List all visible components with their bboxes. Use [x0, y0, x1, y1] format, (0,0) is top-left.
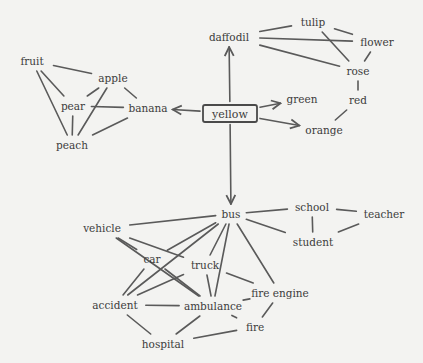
node-teacher: teacher [364, 208, 406, 220]
edge-truck-fire_engine [227, 273, 254, 283]
node-banana: banana [128, 102, 167, 114]
node-fire_engine: fire engine [251, 287, 309, 299]
edge-bus-vehicle [130, 216, 216, 225]
edge-ambulance-fire [232, 315, 237, 317]
edge-daffodil-flower [260, 38, 353, 41]
edge-tulip-flower [335, 29, 353, 35]
edge-bus-school [246, 209, 287, 213]
arrow-yellow-to-bus [230, 125, 231, 205]
node-ambulance: ambulance [184, 300, 242, 312]
node-school: school [295, 201, 330, 213]
node-daffodil: daffodil [209, 31, 250, 43]
edge-apple-banana [125, 88, 137, 98]
node-apple: apple [98, 72, 127, 84]
node-hospital: hospital [142, 338, 185, 350]
edge-apple-pear [87, 88, 98, 96]
edge-fire_engine-fire [262, 303, 272, 317]
node-car: car [143, 253, 161, 265]
node-orange: orange [305, 124, 342, 136]
node-student: student [293, 236, 334, 248]
edge-flower-rose [365, 52, 371, 61]
node-green: green [287, 93, 318, 105]
edge-banana-peach [93, 118, 128, 135]
node-flower: flower [360, 36, 395, 48]
node-bus: bus [222, 208, 241, 220]
node-peach: peach [56, 139, 88, 151]
edge-school-teacher [337, 209, 357, 211]
edge-fire-hospital [194, 330, 237, 338]
node-red: red [349, 94, 367, 106]
edge-ambulance-hospital [176, 316, 200, 334]
edge-fruit-apple [54, 66, 92, 74]
arrow-yellow-to-orange [260, 118, 299, 125]
edge-tulip-rose [322, 32, 349, 61]
edge-red-orange [335, 110, 346, 120]
arrow-yellow-to-banana [173, 110, 200, 112]
edge-truck-ambulance [207, 275, 211, 296]
center-node-yellow: yellow [203, 105, 257, 122]
node-accident: accident [92, 299, 138, 311]
arrow-yellow-to-daffodil [229, 47, 230, 102]
edge-daffodil-tulip [260, 26, 292, 32]
edge-pear-banana [91, 106, 123, 107]
node-tulip: tulip [301, 16, 326, 28]
center-label: yellow [211, 108, 248, 121]
edge-bus-fire_engine [237, 224, 274, 283]
edge-fruit-pear [41, 71, 64, 96]
arrow-yellow-to-green [260, 103, 281, 107]
edge-daffodil-rose [260, 45, 340, 66]
edge-car-ambulance [165, 269, 200, 296]
node-rose: rose [347, 65, 370, 77]
edge-student-teacher [338, 224, 358, 232]
edge-bus-student [246, 219, 285, 232]
nodes-layer: daffodiltulipflowerroseredgreenorangefru… [20, 16, 405, 350]
edge-truck-accident [138, 275, 184, 295]
edge-ambulance-fire_engine [243, 299, 250, 300]
node-pear: pear [61, 100, 86, 112]
edge-bus-car [167, 223, 215, 251]
node-fruit: fruit [20, 55, 44, 67]
edges-layer [37, 26, 371, 338]
semantic-network-diagram: yellow daffodiltulipflowerroseredgreenor… [0, 0, 423, 363]
edge-accident-hospital [127, 315, 150, 334]
node-vehicle: vehicle [82, 222, 121, 234]
node-fire: fire [246, 321, 264, 333]
arrows-layer [173, 47, 300, 204]
node-truck: truck [191, 259, 220, 271]
